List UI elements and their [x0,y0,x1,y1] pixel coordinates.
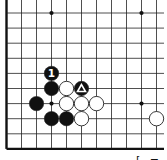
move-number-label: 1 [48,67,55,79]
black-stone [44,112,58,126]
white-stone [59,81,73,95]
white-stone [149,112,163,126]
black-stone [29,96,43,110]
caption-fragment: [ = [136,154,162,160]
hoshi-point [139,102,143,106]
hoshi-point [139,11,143,15]
black-stone [59,112,73,126]
hoshi-point [49,11,53,15]
white-stone [59,96,73,110]
go-board: 1 [0,0,167,160]
white-stone [74,112,88,126]
black-stone [44,81,58,95]
white-stone [74,96,88,110]
black-stone [74,81,88,95]
hoshi-point [49,102,53,106]
grid-lines [7,0,165,149]
white-stone [89,96,103,110]
black-stone: 1 [44,66,58,80]
